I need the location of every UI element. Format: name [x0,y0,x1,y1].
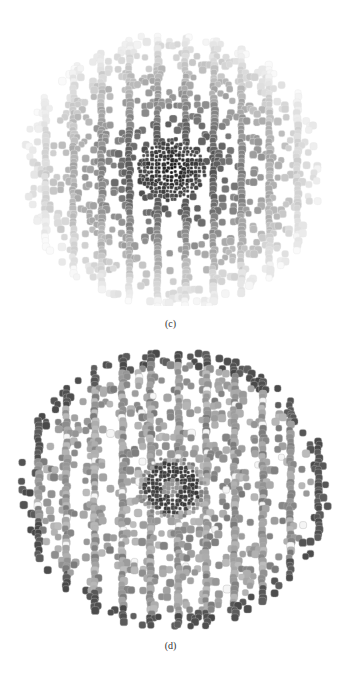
caption-d: (d) [0,640,341,651]
cell-tessellation-image-d [0,340,341,632]
caption-c: (c) [0,318,341,329]
cell-tessellation-image-c [0,0,341,306]
figure-panel-d [0,340,341,632]
figure-panel-c [0,0,341,306]
